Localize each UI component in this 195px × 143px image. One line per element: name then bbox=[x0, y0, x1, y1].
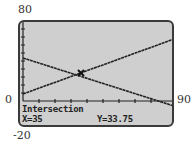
increasing-line bbox=[23, 39, 174, 94]
calculator-graph-screen: Intersection X=35 Y=33.75 bbox=[18, 20, 174, 127]
xmin-label: 0 bbox=[5, 93, 12, 106]
mode-label: Intersection bbox=[22, 105, 83, 114]
xmax-label: 90 bbox=[177, 93, 191, 106]
decreasing-line bbox=[23, 58, 174, 106]
y-readout: Y=33.75 bbox=[97, 115, 133, 124]
ymax-label: 80 bbox=[18, 3, 32, 16]
x-readout: X=35 bbox=[22, 115, 42, 124]
ymin-label: -20 bbox=[13, 129, 31, 142]
